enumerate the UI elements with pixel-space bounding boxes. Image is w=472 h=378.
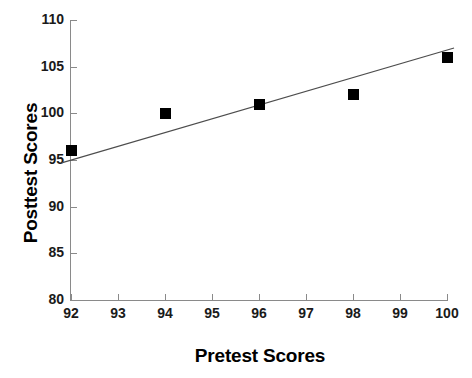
x-axis-line xyxy=(70,300,448,301)
y-tick-label: 85 xyxy=(20,244,64,260)
data-point-marker xyxy=(66,145,77,156)
data-point-marker xyxy=(160,108,171,119)
y-tick-label: 105 xyxy=(20,58,64,74)
y-tick-label: 110 xyxy=(20,11,64,27)
y-tick-label: 90 xyxy=(20,198,64,214)
x-tick-label: 97 xyxy=(286,305,326,321)
x-tick-label: 95 xyxy=(192,305,232,321)
data-point-marker xyxy=(442,52,453,63)
y-tick-label: 100 xyxy=(20,104,64,120)
x-tick-label: 92 xyxy=(51,305,91,321)
x-tick-label: 98 xyxy=(333,305,373,321)
x-tick-label: 93 xyxy=(98,305,138,321)
x-axis-title: Pretest Scores xyxy=(71,345,449,367)
y-tick xyxy=(71,300,77,301)
data-point-marker xyxy=(348,89,359,100)
plot-area xyxy=(71,20,447,300)
y-axis-title: Posttest Scores xyxy=(20,73,42,273)
scatter-chart: Posttest Scores Pretest Scores 808590951… xyxy=(0,0,472,378)
x-tick xyxy=(447,294,448,300)
x-tick-label: 99 xyxy=(380,305,420,321)
y-tick-label: 95 xyxy=(20,151,64,167)
x-tick-label: 100 xyxy=(427,305,467,321)
data-point-marker xyxy=(254,99,265,110)
x-tick-label: 94 xyxy=(145,305,185,321)
x-tick-label: 96 xyxy=(239,305,279,321)
